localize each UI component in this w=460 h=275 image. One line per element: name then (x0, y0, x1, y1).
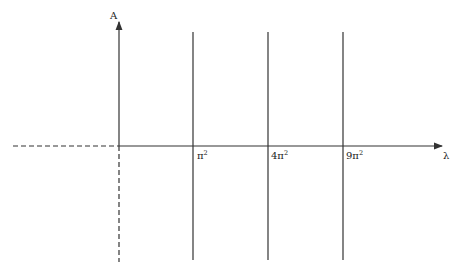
tick-label-4pi2: 4π2 (271, 149, 288, 161)
spectrum-diagram: A λ π2 4π2 9π2 (0, 0, 460, 275)
y-axis-label: A (109, 10, 118, 21)
tick-label-pi2: π2 (197, 149, 208, 161)
tick-label-9pi2: 9π2 (346, 149, 363, 161)
x-axis-label: λ (443, 150, 450, 161)
